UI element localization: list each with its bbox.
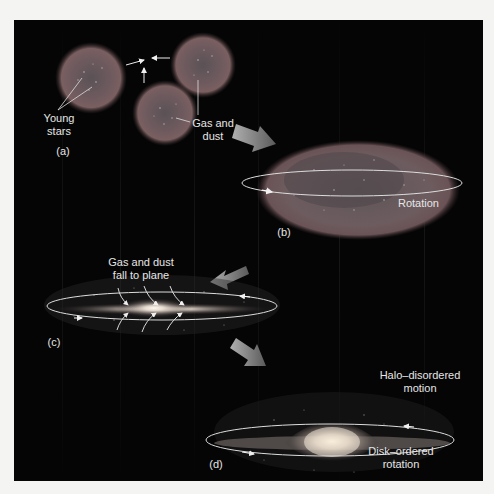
rotation-label: Rotation bbox=[398, 197, 439, 210]
fall-line1: Gas and dust bbox=[106, 256, 176, 269]
fall-line2: fall to plane bbox=[106, 269, 176, 282]
young-stars-line1: Young bbox=[34, 112, 84, 125]
diagram-panel: Young stars (a) Gas and dust Rotation (b… bbox=[14, 20, 483, 481]
fall-to-plane-label: Gas and dust fall to plane bbox=[106, 256, 176, 282]
panel-a-label: (a) bbox=[48, 145, 78, 158]
panel-b-label: (b) bbox=[272, 226, 296, 239]
panel-c-disk bbox=[44, 275, 280, 335]
halo-line2: motion bbox=[372, 382, 468, 395]
panel-b-cloud bbox=[242, 140, 462, 240]
arrow-a-to-b bbox=[232, 124, 276, 152]
young-stars-line2: stars bbox=[34, 125, 84, 138]
disk-line2: rotation bbox=[356, 458, 446, 471]
halo-label: Halo–disordered motion bbox=[372, 369, 468, 395]
young-stars-label: Young stars bbox=[34, 112, 84, 138]
panel-c-label: (c) bbox=[42, 336, 66, 349]
panel-d-label: (d) bbox=[204, 458, 228, 471]
gas-dust-line1: Gas and bbox=[188, 117, 238, 130]
disk-line1: Disk–ordered bbox=[356, 445, 446, 458]
arrow-c-to-d bbox=[230, 338, 266, 366]
gas-dust-label: Gas and dust bbox=[188, 117, 238, 143]
halo-line1: Halo–disordered bbox=[372, 369, 468, 382]
disk-label: Disk–ordered rotation bbox=[356, 445, 446, 471]
diagram-artwork bbox=[14, 20, 483, 481]
gas-dust-line2: dust bbox=[188, 130, 238, 143]
